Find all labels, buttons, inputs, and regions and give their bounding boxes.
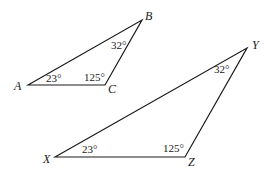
triangle-abc: A B C 23° 32° 125° xyxy=(13,9,153,96)
vertex-label-a: A xyxy=(13,79,22,93)
diagram-svg: A B C 23° 32° 125° X Y Z 23° 32° 125° xyxy=(0,0,268,173)
triangle-xyz: X Y Z 23° 32° 125° xyxy=(42,38,260,169)
vertex-label-c: C xyxy=(108,82,117,96)
angle-label-x: 23° xyxy=(82,143,97,155)
angle-label-z: 125° xyxy=(163,142,184,154)
angle-label-y: 32° xyxy=(214,63,229,75)
angle-label-a: 23° xyxy=(46,72,61,84)
vertex-label-y: Y xyxy=(252,38,260,52)
angle-label-c: 125° xyxy=(84,71,105,83)
similar-triangles-diagram: A B C 23° 32° 125° X Y Z 23° 32° 125° xyxy=(0,0,268,173)
angle-label-b: 32° xyxy=(111,39,126,51)
vertex-label-b: B xyxy=(145,9,153,23)
vertex-label-z: Z xyxy=(188,155,195,169)
vertex-label-x: X xyxy=(42,152,51,166)
